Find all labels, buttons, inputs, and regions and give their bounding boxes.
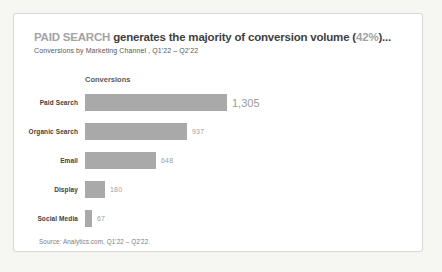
value-label: 180 bbox=[110, 186, 122, 193]
page-background: PAID SEARCH generates the majority of co… bbox=[0, 0, 442, 272]
category-label: Paid Search bbox=[27, 99, 78, 106]
chart-card: PAID SEARCH generates the majority of co… bbox=[13, 13, 423, 252]
category-label: Email bbox=[27, 157, 78, 164]
bar-chart: Paid Search 1,305 Organic Search 937 Ema… bbox=[27, 88, 414, 233]
value-label: 1,305 bbox=[232, 97, 260, 109]
bar bbox=[85, 210, 92, 227]
bar bbox=[85, 181, 105, 198]
axis-title: Conversions bbox=[85, 75, 130, 84]
category-label: Social Media bbox=[27, 215, 78, 222]
category-label: Organic Search bbox=[27, 128, 78, 135]
bar-row: Display 180 bbox=[27, 175, 414, 204]
bar bbox=[85, 94, 227, 111]
title-highlight: 42% bbox=[356, 31, 378, 43]
title-body: generates the majority of conversion vol… bbox=[110, 31, 356, 43]
bar bbox=[85, 152, 156, 169]
title-prefix: PAID SEARCH bbox=[34, 31, 110, 43]
category-label: Display bbox=[27, 186, 78, 193]
bar-row: Paid Search 1,305 bbox=[27, 88, 414, 117]
bar-row: Organic Search 937 bbox=[27, 117, 414, 146]
bar-row: Social Media 67 bbox=[27, 204, 414, 233]
bar-row: Email 648 bbox=[27, 146, 414, 175]
bar bbox=[85, 123, 187, 140]
value-label: 648 bbox=[161, 157, 173, 164]
value-label: 937 bbox=[192, 128, 204, 135]
chart-title: PAID SEARCH generates the majority of co… bbox=[34, 31, 410, 43]
title-suffix: )... bbox=[378, 31, 391, 43]
source-note: Source: Analytics.com, Q1'22 – Q2'22. bbox=[39, 238, 150, 245]
value-label: 67 bbox=[97, 215, 105, 222]
chart-subtitle: Conversions by Marketing Channel , Q1'22… bbox=[34, 47, 198, 54]
